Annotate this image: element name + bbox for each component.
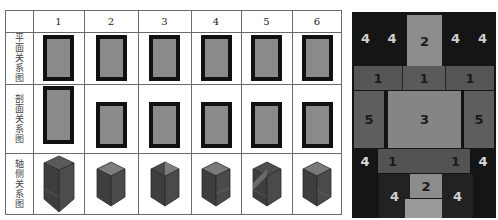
section-cell-3 xyxy=(138,84,191,153)
section-box xyxy=(251,102,282,148)
prism-icon xyxy=(302,161,332,207)
zone-4-block: 4 xyxy=(470,149,496,173)
section-cell-4 xyxy=(191,84,241,153)
section-cell-5 xyxy=(241,84,292,153)
zone-4-block: 4 xyxy=(442,174,473,218)
axon-cell-6 xyxy=(292,153,342,215)
plan-cell-2 xyxy=(84,32,138,84)
section-box xyxy=(149,102,180,148)
row-label-text: 轴侧关系图 xyxy=(13,159,26,209)
row-label-text: 剖面关系图 xyxy=(13,94,26,144)
zone-1-corridor: 1 1 xyxy=(378,149,470,173)
row-label-text: 平面关系图 xyxy=(13,33,26,83)
zone-3-block: 3 xyxy=(388,91,461,148)
spatial-relationship-table: 1 2 3 4 5 6 平面关系图 剖面关系图 轴侧关系图 xyxy=(5,10,342,215)
plan-cell-6 xyxy=(292,32,342,84)
column-header-6: 6 xyxy=(292,11,342,32)
zone-2-block: 2 xyxy=(407,15,442,67)
zone-diagram: 4 4 2 4 4 1 1 1 5 3 5 4 1 1 4 4 2 4 xyxy=(352,12,496,218)
zone-2-block: 2 xyxy=(410,174,442,198)
prism-icon xyxy=(96,161,126,207)
plan-cell-5 xyxy=(241,32,292,84)
section-box xyxy=(201,102,232,148)
axon-cell-3 xyxy=(138,153,191,215)
zone-4-block: 4 xyxy=(352,149,378,173)
column-header-3: 3 xyxy=(138,11,191,32)
section-cell-1 xyxy=(33,84,84,153)
zone-1-block: 1 xyxy=(445,66,494,90)
prism-icon xyxy=(252,161,282,207)
axon-cell-5 xyxy=(241,153,292,215)
zone-4-block: 4 xyxy=(442,12,469,64)
plan-box xyxy=(43,35,74,81)
axon-cell-1 xyxy=(33,153,84,215)
tall-prism-icon xyxy=(43,155,75,213)
section-cell-2 xyxy=(84,84,138,153)
zone-1-label: 1 xyxy=(388,154,397,169)
column-header-2: 2 xyxy=(84,11,138,32)
plan-box xyxy=(302,35,333,81)
axon-cell-2 xyxy=(84,153,138,215)
plan-cell-1 xyxy=(33,32,84,84)
column-header-1: 1 xyxy=(33,11,84,32)
row-label-plan: 平面关系图 xyxy=(6,32,33,84)
column-header-5: 5 xyxy=(241,11,292,32)
zone-5-block: 5 xyxy=(354,91,386,148)
zone-1-block: 1 xyxy=(403,66,445,90)
zone-1-label: 1 xyxy=(451,154,460,169)
section-box xyxy=(302,102,333,148)
plan-box xyxy=(251,35,282,81)
zone-5-block: 5 xyxy=(462,91,494,148)
prism-icon xyxy=(201,161,231,207)
plan-box xyxy=(201,35,232,81)
section-cell-6 xyxy=(292,84,342,153)
zone-4-block: 4 xyxy=(352,12,379,64)
row-label-section: 剖面关系图 xyxy=(6,84,33,153)
prism-icon xyxy=(150,161,180,207)
zone-4-block: 4 xyxy=(469,12,496,64)
plan-box xyxy=(149,35,180,81)
section-box xyxy=(96,102,127,148)
column-header-4: 4 xyxy=(191,11,241,32)
section-box xyxy=(43,86,74,144)
zone-1-block: 1 xyxy=(354,66,403,90)
plan-box xyxy=(96,35,127,81)
axon-cell-4 xyxy=(191,153,241,215)
plan-cell-3 xyxy=(138,32,191,84)
row-label-axonometric: 轴侧关系图 xyxy=(6,153,33,215)
plan-cell-4 xyxy=(191,32,241,84)
zone-4-block: 4 xyxy=(379,12,405,64)
